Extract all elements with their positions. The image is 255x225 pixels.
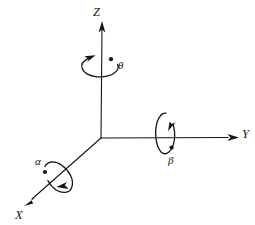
axes-drawing — [0, 0, 255, 225]
axis-lines-group — [32, 28, 228, 199]
beta-rotation-group — [156, 113, 176, 154]
theta-rotation-group — [82, 55, 118, 77]
y-axis-arrowhead — [228, 134, 240, 141]
beta-rotation-label: β — [168, 155, 173, 166]
theta-rotation-label: θ — [118, 60, 123, 71]
alpha-rotation-dot — [43, 170, 47, 174]
beta-rotation-dot — [170, 146, 174, 150]
theta-rotation-arc — [82, 59, 118, 77]
z-axis-line — [101, 28, 102, 138]
rotation-axes-diagram: Z Y X θ β α — [0, 0, 255, 225]
x-axis-label: X — [15, 209, 23, 222]
y-axis-line — [101, 138, 228, 139]
z-axis-label: Z — [93, 6, 100, 19]
alpha-rotation-label: α — [35, 156, 41, 167]
theta-rotation-arrowhead — [84, 55, 95, 62]
theta-rotation-dot — [109, 57, 113, 61]
y-axis-label: Y — [242, 128, 249, 141]
x-axis-arrowhead — [24, 198, 36, 207]
alpha-rotation-arrowhead — [56, 182, 69, 189]
